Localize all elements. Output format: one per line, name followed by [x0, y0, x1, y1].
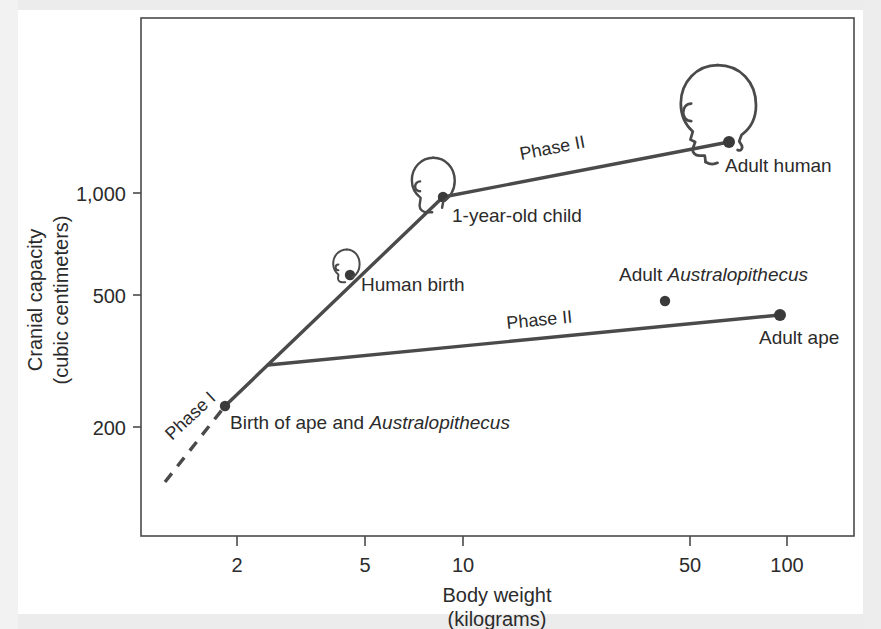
x-tick-label-100: 100: [770, 554, 803, 576]
x-axis-title: Body weight (kilograms): [443, 584, 552, 629]
label-one-year-old-child: 1-year-old child: [452, 205, 582, 226]
label-adult-australopithecus: Adult Australopithecus: [619, 264, 809, 285]
label-adult-australopithecus-italic: Australopithecus: [667, 264, 809, 285]
x-tick-label-50: 50: [679, 554, 701, 576]
y-tick-label-500: 500: [93, 285, 126, 307]
x-axis-title-line1: Body weight: [443, 584, 552, 606]
figure-canvas: 1,000 500 200 Cranial capacity (cubic ce…: [0, 0, 881, 629]
x-tick-label-10: 10: [452, 554, 474, 576]
point-adult-human[interactable]: [723, 136, 735, 148]
x-axis-title-line2: (kilograms): [448, 608, 547, 629]
point-birth-of-ape[interactable]: [220, 401, 230, 411]
label-birth-of-ape: Birth of ape and Australopithecus: [230, 412, 510, 433]
y-axis-ticks: 1,000 500 200: [76, 183, 141, 439]
point-human-birth[interactable]: [345, 270, 355, 280]
y-axis-title: Cranial capacity (cubic centimeters): [24, 216, 72, 385]
label-adult-human: Adult human: [725, 155, 832, 176]
point-adult-ape[interactable]: [774, 309, 786, 321]
x-tick-label-5: 5: [359, 554, 370, 576]
y-axis-title-line1: Cranial capacity: [24, 229, 46, 371]
x-axis-ticks: 2 5 10 50 100: [231, 536, 803, 576]
label-adult-ape: Adult ape: [759, 327, 839, 348]
label-human-birth: Human birth: [361, 274, 465, 295]
x-tick-label-2: 2: [231, 554, 242, 576]
cranial-capacity-chart: 1,000 500 200 Cranial capacity (cubic ce…: [0, 0, 881, 629]
label-adult-australopithecus-text: Adult: [619, 264, 668, 285]
label-birth-of-ape-italic: Australopithecus: [368, 412, 510, 433]
label-birth-of-ape-text: Birth of ape and: [230, 412, 369, 433]
y-tick-label-1000: 1,000: [76, 183, 126, 205]
point-adult-australopithecus[interactable]: [660, 296, 670, 306]
y-axis-title-line2: (cubic centimeters): [50, 216, 72, 385]
y-tick-label-200: 200: [93, 417, 126, 439]
